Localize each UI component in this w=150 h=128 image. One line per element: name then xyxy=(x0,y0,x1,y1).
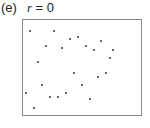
data-point xyxy=(65,92,67,94)
data-point xyxy=(45,45,47,47)
data-point xyxy=(69,38,71,40)
plot-frame xyxy=(23,20,142,116)
data-point xyxy=(73,72,75,74)
data-point xyxy=(37,61,39,63)
data-point xyxy=(61,47,63,49)
data-point xyxy=(109,57,111,59)
data-point xyxy=(77,36,79,38)
data-point xyxy=(33,107,35,109)
scatter-plot xyxy=(0,0,150,128)
data-point xyxy=(100,40,102,42)
data-point xyxy=(85,45,87,47)
data-point xyxy=(57,96,59,98)
data-point xyxy=(49,96,51,98)
data-point xyxy=(93,49,95,51)
data-points xyxy=(25,30,114,109)
data-point xyxy=(97,76,99,78)
data-point xyxy=(29,30,31,32)
data-point xyxy=(53,30,55,32)
data-point xyxy=(81,84,83,86)
data-point xyxy=(89,98,91,100)
data-point xyxy=(112,49,114,51)
data-point xyxy=(105,72,107,74)
data-point xyxy=(25,92,27,94)
data-point xyxy=(41,84,43,86)
